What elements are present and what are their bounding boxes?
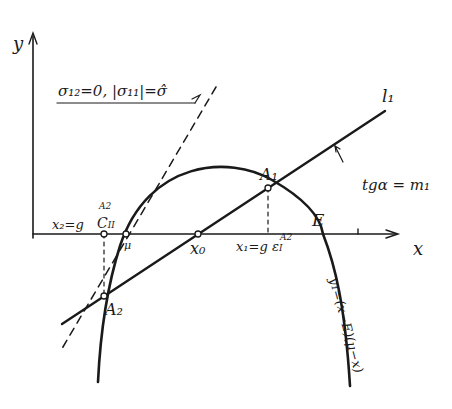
point-A2-label: A₂ — [105, 302, 123, 318]
diagram-canvas: y x σ₁₂=0, |σ₁₁|=σ̂ l₁ tgα = m₁ A₁ A₂ E … — [0, 0, 452, 409]
point-E-label: E — [312, 212, 324, 229]
diagram-drawing — [0, 0, 452, 409]
point-mu-label: μ — [124, 240, 131, 251]
point-A1-label: A₁ — [260, 167, 278, 183]
x-axis-label: x — [413, 240, 423, 258]
point-A2 — [101, 293, 107, 299]
condition-label: σ₁₂=0, |σ₁₁|=σ̂ — [58, 84, 167, 99]
point-mu — [123, 231, 129, 237]
point-x0-label: x₀ — [190, 241, 205, 257]
point-C2-label: CII — [97, 216, 115, 230]
slope-label: tgα = m₁ — [362, 178, 430, 193]
point-C2 — [101, 231, 107, 237]
point-x0 — [195, 231, 201, 237]
point-A1 — [265, 185, 271, 191]
x2-label: x₂=g — [52, 218, 84, 231]
line-l1-label: l₁ — [382, 88, 394, 105]
y-axis-label: y — [13, 35, 23, 53]
point-C2-superscript: A2 — [99, 202, 111, 211]
x1-superscript: A2 — [280, 233, 292, 242]
x1-label: x₁=g εI — [236, 240, 282, 253]
